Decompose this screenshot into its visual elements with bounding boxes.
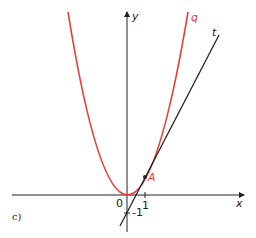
- point-a-label: A: [148, 171, 156, 184]
- x-axis-label: x: [236, 197, 243, 210]
- x-tick-label: 1: [142, 199, 149, 212]
- curve-t-label: t: [212, 26, 216, 39]
- y-axis-label: y: [132, 10, 139, 23]
- panel-label: c): [12, 211, 22, 222]
- plot: [0, 0, 256, 238]
- point-a: [143, 175, 147, 179]
- origin-label: 0: [116, 197, 123, 210]
- tangent-t: [120, 35, 219, 226]
- parabola-q: [68, 12, 188, 195]
- y-tick-label: -1: [132, 206, 143, 219]
- curve-q-label: q: [191, 11, 198, 24]
